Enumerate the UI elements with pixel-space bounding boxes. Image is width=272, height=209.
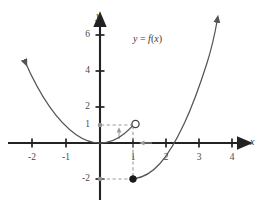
x-tick-label-3: 3 [190,152,208,162]
x-tick-label-2: 2 [157,152,175,162]
y-axis-marker-1-dot [98,123,102,127]
function-graph-figure: x y y = f(x) -2 -1 1 2 3 4 1 2 4 6 -2 [0,0,272,209]
curve-equation-equals: = [137,33,148,44]
filled-dot-endpoint [130,176,137,183]
guide-direction-arrows [119,131,152,143]
x-tick-label--2: -2 [22,152,42,162]
y-tick-label--2: -2 [70,173,90,183]
x-tick-label-1: 1 [124,152,142,162]
x-tick-label-4: 4 [223,152,241,162]
y-tick-label-4: 4 [74,65,90,75]
y-axis-marker-minus2-dot [98,177,102,181]
y-tick-label-2: 2 [74,101,90,111]
x-tick-label--1: -1 [56,152,76,162]
curve-equation-label: y = f(x) [133,33,162,44]
open-circle-endpoint [132,120,139,127]
graph-canvas [0,0,272,209]
y-tick-label-6: 6 [74,29,90,39]
x-axis-label: x [250,136,254,147]
curve-equation-paren-close: ) [159,33,162,44]
axes-group [8,25,239,200]
y-tick-label-1: 1 [74,119,90,129]
y-axis-label: y [96,10,100,21]
